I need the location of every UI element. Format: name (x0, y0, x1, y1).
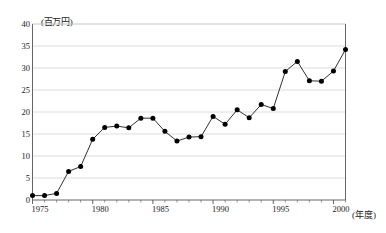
gridlines (33, 24, 346, 178)
x-axis-ticks (33, 200, 346, 204)
chart-container: (百万円) (年度) 0510152025303540 197519801985… (0, 0, 386, 233)
line-chart-plot (0, 0, 386, 233)
x-axis-tick-label: 1995 (272, 205, 289, 214)
data-line (33, 50, 346, 196)
x-axis-tick-label: 2000 (332, 205, 349, 214)
x-axis-tick-label: 1990 (212, 205, 229, 214)
x-axis-tick-label: 1985 (152, 205, 169, 214)
x-axis-tick-label: 1975 (32, 205, 49, 214)
x-axis-tick-label: 1980 (92, 205, 109, 214)
data-point-markers (30, 47, 348, 198)
